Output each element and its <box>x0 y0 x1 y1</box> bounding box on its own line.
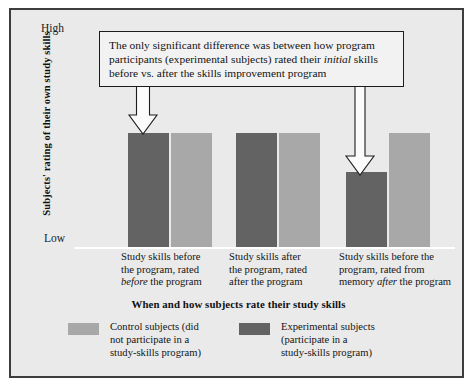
bar-group1-experimental <box>128 133 169 247</box>
bar-group2-control <box>279 133 320 247</box>
bar-group3-experimental <box>346 172 387 247</box>
x-tick-label-1: Study skills beforethe program, ratedbef… <box>121 251 202 289</box>
bar-group2-experimental <box>236 133 277 247</box>
bar-group3-control <box>389 133 430 247</box>
plot-area: Subjects' rating of their own study skil… <box>11 10 462 376</box>
callout-annotation-box: The only significant difference was betw… <box>99 31 404 87</box>
legend-label-experimental: Experimental subjects (participate in a … <box>281 321 375 359</box>
legend-item-control: Control subjects (did not participate in… <box>68 321 201 359</box>
legend-item-experimental: Experimental subjects (participate in a … <box>239 321 375 359</box>
x-axis-title: When and how subjects rate their study s… <box>11 298 466 310</box>
bar-group1-control <box>171 133 212 247</box>
figure-container: Subjects' rating of their own study skil… <box>0 0 475 388</box>
x-tick-label-2: Study skills afterthe program, ratedafte… <box>229 251 307 289</box>
x-axis-baseline <box>74 247 455 249</box>
x-axis-tick-labels: Study skills beforethe program, ratedbef… <box>11 251 462 297</box>
x-tick-label-3: Study skills before theprogram, rated fr… <box>339 251 451 289</box>
callout-text-emphasis: initial <box>324 53 351 65</box>
legend-label-control: Control subjects (did not participate in… <box>110 321 201 359</box>
chart-legend: Control subjects (did not participate in… <box>11 318 466 374</box>
legend-swatch-experimental <box>239 323 270 335</box>
legend-swatch-control <box>68 323 99 335</box>
chart-frame: Subjects' rating of their own study skil… <box>9 8 464 378</box>
